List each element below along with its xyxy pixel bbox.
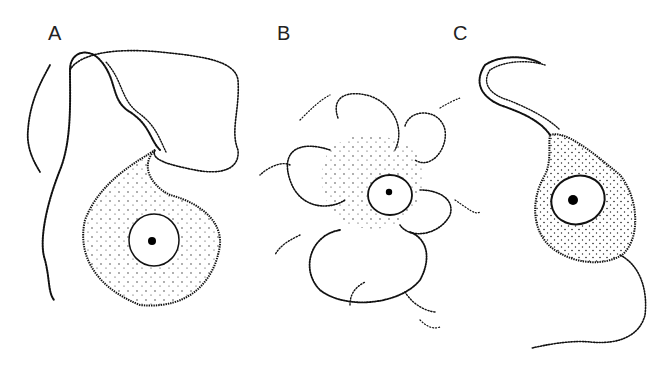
- cell-illustrations: [0, 0, 669, 368]
- cell-b: [260, 94, 480, 328]
- cell-a: [28, 51, 239, 306]
- nucleolus: [148, 237, 156, 245]
- cell-c: [480, 57, 646, 348]
- nucleolus: [386, 189, 392, 195]
- nucleolus: [568, 195, 578, 205]
